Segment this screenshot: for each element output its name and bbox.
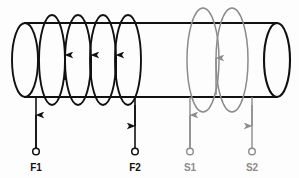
core-left-end-cap — [12, 23, 38, 97]
terminal-lead-s2 — [249, 97, 256, 155]
primary-coil-turn-4 — [115, 15, 141, 105]
primary-coil-turn-1 — [39, 15, 65, 105]
s1-terminal-node[interactable] — [187, 148, 194, 155]
primary-coil-turn-3 — [90, 15, 116, 105]
terminal-label-s1: S1 — [184, 162, 197, 173]
f1-terminal-node[interactable] — [33, 148, 40, 155]
terminal-lead-s1 — [187, 97, 194, 155]
terminal-label-s2: S2 — [246, 162, 259, 173]
primary-coil-turn-2 — [65, 15, 91, 105]
diagram-canvas: F1 F2 S1 S2 — [0, 0, 299, 178]
solenoid-transformer-diagram: F1 F2 S1 S2 — [0, 0, 299, 178]
primary-coil — [39, 15, 141, 105]
terminal-label-f2: F2 — [129, 162, 141, 173]
terminal-lead-f2 — [132, 97, 139, 155]
f2-terminal-node[interactable] — [132, 148, 139, 155]
terminal-lead-f1 — [33, 97, 40, 155]
core-right-end-cap — [264, 23, 290, 97]
s2-terminal-node[interactable] — [249, 148, 256, 155]
terminal-label-f1: F1 — [30, 162, 42, 173]
